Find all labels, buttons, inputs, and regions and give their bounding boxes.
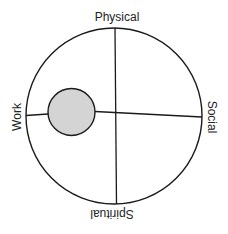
- vertical-axis: [115, 28, 117, 204]
- label-physical: Physical: [95, 10, 140, 24]
- work-marker-circle: [48, 89, 95, 136]
- label-social: Social: [205, 101, 219, 134]
- balance-wheel-diagram: Physical Social Spiritual Work: [0, 0, 228, 234]
- horizontal-axis-right: [95, 112, 202, 118]
- horizontal-axis-left: [26, 114, 48, 116]
- label-spiritual: Spiritual: [90, 207, 133, 221]
- label-work: Work: [10, 102, 24, 131]
